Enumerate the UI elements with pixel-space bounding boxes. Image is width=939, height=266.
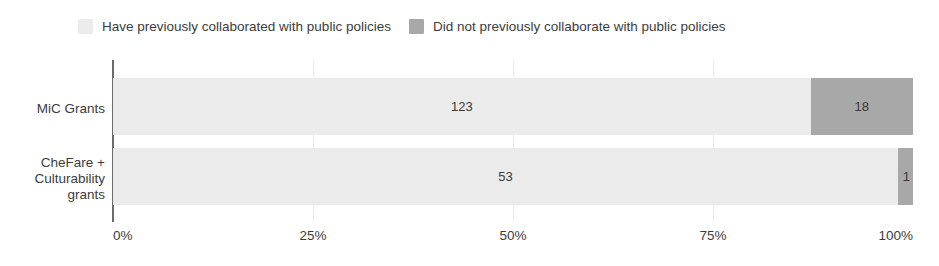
legend-label-not-collaborated: Did not previously collaborate with publ…	[433, 19, 726, 34]
legend-swatch-collaborated	[78, 19, 93, 34]
x-tick-0: 0%	[113, 228, 133, 244]
bar-row-mic-grants: 123 18	[113, 78, 913, 135]
legend-label-collaborated: Have previously collaborated with public…	[102, 19, 391, 34]
y-axis-label-line: CheFare +	[0, 155, 105, 171]
legend-item-collaborated[interactable]: Have previously collaborated with public…	[78, 14, 391, 38]
bar-segment-not-collaborated[interactable]: 18	[811, 78, 913, 135]
x-tick-75: 75%	[699, 228, 726, 244]
plot-area: 123 18 53 1	[113, 60, 913, 222]
y-axis-label-line: Culturability	[0, 171, 105, 187]
bar-segment-collaborated[interactable]: 53	[113, 148, 898, 205]
x-tick-25: 25%	[299, 228, 326, 244]
y-axis-label-line: MiC Grants	[0, 101, 105, 117]
y-axis-label-mic-grants: MiC Grants	[0, 101, 105, 117]
bar-value-label: 1	[903, 169, 910, 184]
bar-value-label: 123	[451, 99, 473, 114]
bar-value-label: 53	[498, 169, 512, 184]
x-tick-50: 50%	[499, 228, 526, 244]
bar-segment-collaborated[interactable]: 123	[113, 78, 811, 135]
y-axis-label-chefare-culturability: CheFare + Culturability grants	[0, 155, 105, 203]
stacked-bar-chart: Have previously collaborated with public…	[0, 0, 939, 266]
chart-legend: Have previously collaborated with public…	[0, 14, 939, 38]
bar-value-label: 18	[855, 99, 869, 114]
legend-item-not-collaborated[interactable]: Did not previously collaborate with publ…	[409, 14, 726, 38]
y-axis-label-line: grants	[0, 187, 105, 203]
bar-row-chefare-culturability: 53 1	[113, 148, 913, 205]
legend-swatch-not-collaborated	[409, 19, 424, 34]
x-tick-100: 100%	[878, 228, 913, 244]
bar-segment-not-collaborated[interactable]: 1	[898, 148, 913, 205]
